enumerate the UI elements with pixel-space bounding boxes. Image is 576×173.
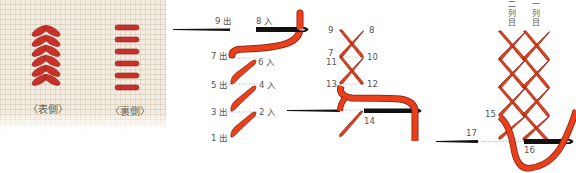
label-16: 16 xyxy=(524,145,535,155)
label-3-out: 3 出 xyxy=(211,107,228,117)
cross-stitches xyxy=(339,30,363,137)
diagram-step-2: 9 8 7 10 11 13 12 14 xyxy=(287,13,422,141)
column-label-second: 二列目 xyxy=(507,0,516,27)
needle-icon xyxy=(173,29,230,32)
needle-icon xyxy=(436,140,478,143)
label-2-in: 2 入 xyxy=(259,107,276,117)
label-11: 11 xyxy=(326,57,337,67)
label-10: 10 xyxy=(367,52,378,62)
stitches xyxy=(231,60,256,137)
diagram-step-3: 15 16 17 xyxy=(436,31,576,168)
label-4-in: 4 入 xyxy=(259,80,276,90)
stitch-diagrams: 9 出 8 入 7 出 6 入 5 出 4 入 3 出 2 入 1 出 xyxy=(0,0,576,173)
label-8: 8 xyxy=(369,25,374,35)
working-thread xyxy=(340,86,415,141)
label-5-out: 5 出 xyxy=(211,80,228,90)
label-9: 9 xyxy=(328,25,333,35)
label-8-in: 8 入 xyxy=(256,16,273,26)
needle-icon xyxy=(287,110,340,113)
label-15: 15 xyxy=(485,109,496,119)
label-9-out: 9 出 xyxy=(215,16,232,26)
diagram-step-1: 9 出 8 入 7 出 6 入 5 出 4 入 3 出 2 入 1 出 xyxy=(173,13,309,143)
label-14: 14 xyxy=(364,116,375,126)
label-17: 17 xyxy=(466,128,477,138)
label-1-out: 1 出 xyxy=(211,133,228,143)
label-6-in: 6 入 xyxy=(258,57,275,67)
label-7-out: 7 出 xyxy=(211,51,228,61)
column-label-first: 一列目 xyxy=(531,0,540,27)
label-12: 12 xyxy=(367,79,378,89)
label-13: 13 xyxy=(326,79,337,89)
